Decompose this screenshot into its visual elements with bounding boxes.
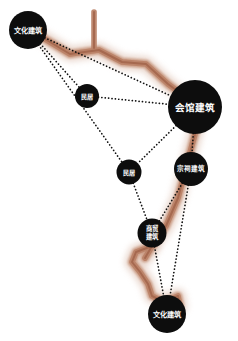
edge-guildhall-to-folk-mid <box>138 126 177 164</box>
edge-folk-mid-to-commerce <box>133 183 147 220</box>
node-label-n1: 文化建筑 <box>13 26 43 35</box>
node-label-n2: 民居 <box>81 93 93 101</box>
node-label-n5: 宗祠建筑 <box>177 164 205 173</box>
node-label-n6-line2: 建筑 <box>145 232 159 241</box>
node-label-n4: 民居 <box>123 169 135 177</box>
node-n4[interactable]: 民居 <box>117 160 142 185</box>
diagram-canvas: 文化建筑民居会馆建筑民居宗祠建筑商贸建筑文化建筑 <box>0 0 238 341</box>
node-n1[interactable]: 文化建筑 <box>9 11 47 49</box>
node-label-n3: 会馆建筑 <box>175 102 215 113</box>
node-n6[interactable]: 商贸建筑 <box>138 219 167 248</box>
node-n3[interactable]: 会馆建筑 <box>168 80 222 134</box>
edge-folk-upper-to-guildhall <box>98 97 168 104</box>
diagram-svg: 文化建筑民居会馆建筑民居宗祠建筑商贸建筑文化建筑 <box>0 0 238 341</box>
node-n5[interactable]: 宗祠建筑 <box>174 152 208 186</box>
node-n2[interactable]: 民居 <box>75 84 99 108</box>
node-n7[interactable]: 文化建筑 <box>148 295 186 333</box>
node-label-n7: 文化建筑 <box>152 310 182 319</box>
